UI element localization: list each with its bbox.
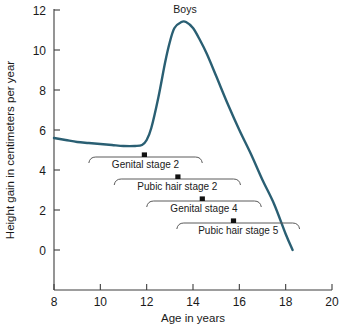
y-tick-label: 8: [39, 84, 46, 98]
x-axis-title: Age in years: [161, 312, 225, 324]
stage-bracket-label: Genital stage 2: [112, 159, 180, 170]
x-tick-label: 10: [94, 295, 108, 309]
x-tick-label: 18: [279, 295, 293, 309]
y-tick-label: 6: [39, 124, 46, 138]
stage-median-marker: [175, 174, 180, 179]
y-tick-label: 0: [39, 244, 46, 258]
x-tick-label: 12: [140, 295, 154, 309]
x-tick-label: 8: [51, 295, 58, 309]
stage-bracket: Genital stage 4: [147, 196, 262, 214]
stage-bracket: Genital stage 2: [89, 152, 203, 170]
stage-bracket: Pubic hair stage 2: [114, 174, 240, 192]
chart-canvas: 024681012 8101214161820 Genital stage 2P…: [0, 0, 349, 328]
y-tick-label: 4: [39, 164, 46, 178]
y-tick-label: 12: [33, 4, 47, 18]
height-velocity-chart: 024681012 8101214161820 Genital stage 2P…: [0, 0, 349, 328]
series-label-boys: Boys: [173, 3, 196, 15]
stage-median-marker: [200, 196, 205, 201]
y-axis-title: Height gain in centimeters per year: [4, 61, 16, 240]
stage-median-marker: [231, 218, 236, 223]
x-axis-ticks: 8101214161820: [51, 284, 339, 309]
stage-bracket-label: Genital stage 4: [170, 203, 238, 214]
stage-bracket-label: Pubic hair stage 2: [137, 181, 217, 192]
height-velocity-curve: [54, 21, 293, 250]
y-tick-label: 10: [33, 44, 47, 58]
x-tick-label: 20: [325, 295, 339, 309]
x-tick-label: 14: [186, 295, 200, 309]
x-tick-label: 16: [233, 295, 247, 309]
y-tick-label: 2: [39, 204, 46, 218]
stage-bracket-label: Pubic hair stage 5: [198, 225, 278, 236]
y-axis-ticks: 024681012: [33, 4, 60, 258]
stage-median-marker: [142, 152, 147, 157]
pubertal-stage-brackets: Genital stage 2Pubic hair stage 2Genital…: [89, 152, 300, 236]
